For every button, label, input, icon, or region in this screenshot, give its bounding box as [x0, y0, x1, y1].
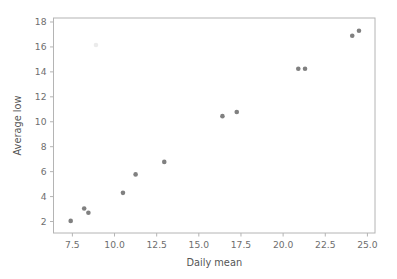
y-tick-label: 10: [35, 116, 47, 127]
data-point: [220, 114, 225, 119]
data-point: [133, 172, 138, 177]
x-tick-label: 25.0: [357, 239, 378, 250]
data-point: [234, 110, 239, 115]
y-tick-label: 12: [35, 91, 47, 102]
data-point: [162, 160, 167, 165]
axes-group: 7.510.012.515.017.520.022.525.0246810121…: [35, 16, 378, 249]
data-point: [121, 191, 126, 196]
data-point: [350, 33, 355, 38]
y-tick-label: 2: [41, 216, 47, 227]
y-tick-label: 6: [41, 166, 47, 177]
x-tick-label: 12.5: [146, 239, 167, 250]
data-point: [296, 66, 301, 71]
x-tick-label: 7.5: [65, 239, 80, 250]
y-tick-label: 14: [35, 66, 47, 77]
plot-frame: [54, 18, 376, 233]
scatter-plot-figure: 7.510.012.515.017.520.022.525.0246810121…: [0, 0, 397, 279]
x-tick-label: 10.0: [104, 239, 125, 250]
y-axis-label: Average low: [12, 95, 23, 155]
y-tick-label: 4: [41, 191, 47, 202]
data-point: [82, 206, 87, 211]
data-point: [357, 28, 362, 33]
data-point: [86, 210, 91, 215]
y-tick-label: 8: [41, 141, 47, 152]
x-tick-label: 17.5: [231, 239, 252, 250]
y-tick-label: 18: [35, 16, 47, 27]
x-tick-label: 15.0: [189, 239, 210, 250]
x-tick-label: 20.0: [273, 239, 294, 250]
data-point: [303, 66, 308, 71]
y-tick-label: 16: [35, 41, 47, 52]
plot-canvas: 7.510.012.515.017.520.022.525.0246810121…: [0, 0, 397, 279]
data-point: [68, 219, 73, 224]
data-points-group: [68, 28, 361, 223]
data-point: [94, 43, 99, 48]
x-tick-label: 22.5: [315, 239, 336, 250]
x-axis-label: Daily mean: [186, 257, 242, 268]
